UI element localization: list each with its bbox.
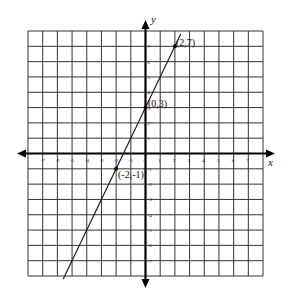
y-tick-label: -7 bbox=[148, 259, 153, 264]
x-tick-label: 4 bbox=[202, 158, 205, 163]
y-tick-label: -3 bbox=[148, 197, 153, 202]
point-label-2-7: (2,7) bbox=[176, 37, 195, 49]
y-tick-label: -1 bbox=[148, 167, 153, 172]
x-tick-label: -5 bbox=[70, 158, 75, 163]
x-tick-label: 1 bbox=[158, 158, 161, 163]
x-tick-label: -2 bbox=[114, 158, 119, 163]
y-tick-label: -6 bbox=[148, 243, 153, 248]
data-point bbox=[144, 106, 148, 110]
x-tick-label: -4 bbox=[85, 158, 90, 163]
x-tick-label: 2 bbox=[173, 158, 176, 163]
left-arrow-icon bbox=[17, 150, 26, 158]
x-tick-label: -7 bbox=[41, 158, 46, 163]
y-tick-label: -5 bbox=[148, 228, 153, 233]
y-tick-label: -2 bbox=[148, 182, 153, 187]
axes bbox=[17, 20, 275, 288]
point-label-neg2-neg1: (-2,-1) bbox=[118, 169, 144, 181]
x-tick-label: -1 bbox=[129, 158, 134, 163]
x-tick-label: 6 bbox=[232, 158, 235, 163]
x-tick-label: 5 bbox=[217, 158, 220, 163]
x-tick-label: -3 bbox=[99, 158, 104, 163]
data-line bbox=[63, 34, 181, 279]
y-tick-label: -4 bbox=[148, 213, 153, 218]
y-axis-label: y bbox=[150, 13, 156, 25]
up-arrow-icon bbox=[142, 20, 150, 29]
coordinate-plane: -7-6-5-4-3-2-101234567-7-6-5-4-3-2-11234… bbox=[0, 0, 291, 303]
x-axis-label: x bbox=[267, 156, 273, 168]
point-label-0-3: (0,3) bbox=[148, 98, 167, 110]
x-tick-label: -6 bbox=[55, 158, 60, 163]
x-tick-label: 3 bbox=[188, 158, 191, 163]
down-arrow-icon bbox=[142, 279, 150, 288]
x-tick-label: 7 bbox=[246, 158, 249, 163]
